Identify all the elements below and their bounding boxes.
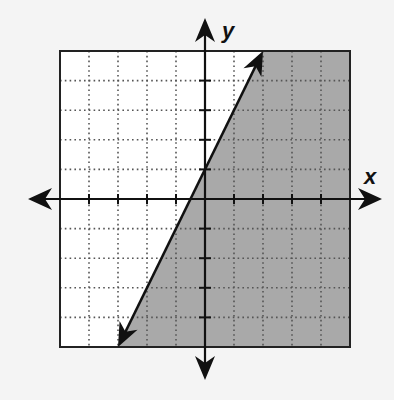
inequality-graph: y x [0, 0, 394, 400]
x-axis-label: x [363, 164, 377, 189]
y-axis-label: y [221, 18, 236, 43]
